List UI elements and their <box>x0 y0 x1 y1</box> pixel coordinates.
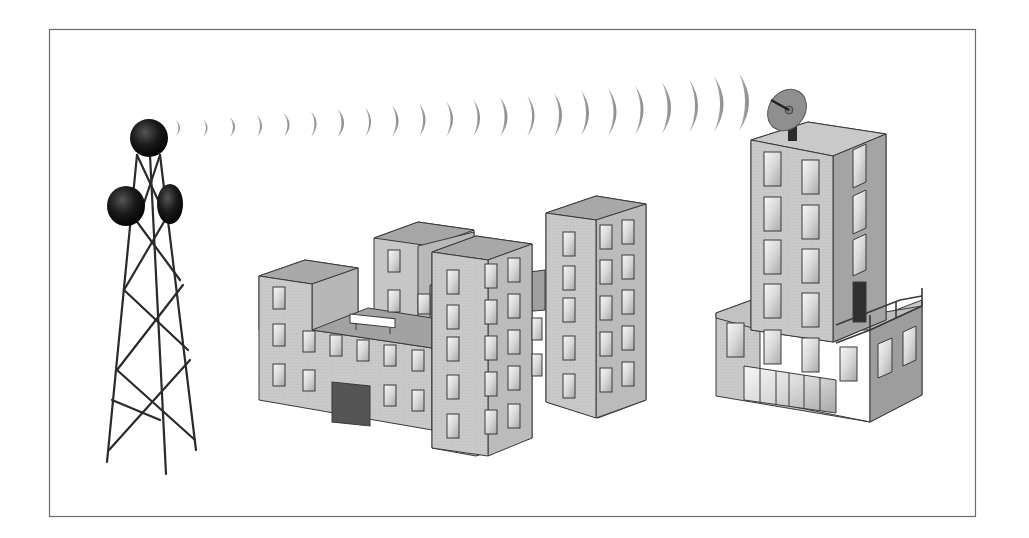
diagram-canvas <box>0 0 1029 538</box>
entrance-door <box>332 382 370 426</box>
right-antenna-icon <box>157 184 183 224</box>
top-antenna-icon <box>130 119 168 157</box>
left-antenna-icon <box>107 186 145 226</box>
